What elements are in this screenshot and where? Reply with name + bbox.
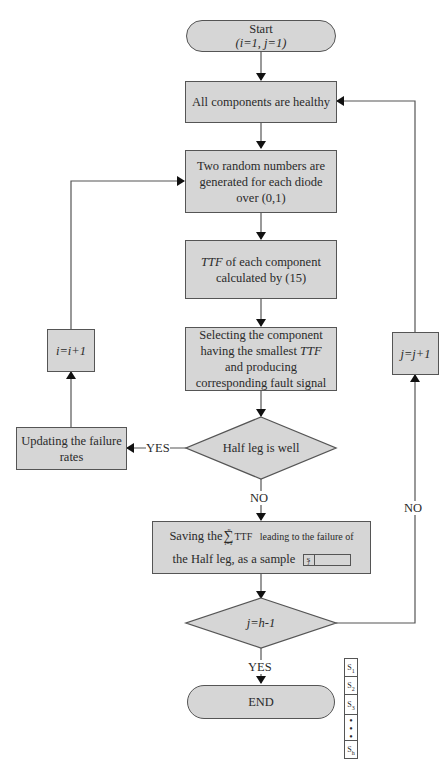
random-numbers-label: Two random numbers are generated for eac… [190,158,332,206]
start-terminal: Start (i=1, j=1) [186,20,336,52]
ttf-term: TTF [201,255,223,269]
half-leg-label: Half leg is well [223,441,300,456]
select-text-2: and producing corresponding fault signal [196,360,327,390]
samples-column: S1 S2 S3 • • • Sh [344,658,358,759]
save-line-2: the Half leg, as a sample Sj [173,548,351,570]
yes-down-label: YES [248,660,272,674]
sample-cell-3: S3 [345,695,357,715]
j-increment-label: j=j+1 [400,346,430,362]
i-increment-label: i=i+1 [56,343,86,359]
start-title: Start [249,22,273,36]
save-text-3: the Half leg, as a sample [173,552,296,566]
save-text-2: TTF leading to the failure of [234,531,353,542]
sigma-symbol: ∑ni=1 [224,525,234,547]
ttf-calc-label: TTF of each component calculated by (15) [190,254,332,286]
sample-cell-h: Sh [345,741,357,758]
sample-sub: 1 [352,668,355,674]
ttf-calc-box: TTF of each component calculated by (15) [185,240,337,299]
update-failure-rates-box: Updating the failure rates [16,427,127,470]
no-down-label: NO [250,491,268,505]
all-healthy-label: All components are healthy [192,94,330,110]
sample-sub: 2 [352,686,355,692]
sample-cell-1: S1 [345,659,357,677]
save-line-1: Saving the∑ni=1TTF leading to the failur… [169,525,353,548]
no-right-label: NO [404,501,422,515]
select-ttf: TTF [300,344,322,358]
j-check-diamond: j=h-1 [186,598,336,648]
update-label: Updating the failure rates [21,433,122,465]
sample-sub: h [352,750,355,756]
sample-ellipsis: • • • [345,715,357,741]
select-component-label: Selecting the component having the small… [190,327,332,391]
start-init: (i=1, j=1) [236,36,287,50]
half-leg-diamond: Half leg is well [186,417,336,479]
end-label: END [248,694,274,710]
sample-slot-s: S [304,555,315,565]
save-sample-box: Saving the∑ni=1TTF leading to the failur… [152,521,371,574]
sample-cell-2: S2 [345,677,357,695]
save-text-1: Saving the [169,529,222,543]
i-increment-box: i=i+1 [47,329,95,372]
sigma-bottom: i=1 [225,532,233,554]
yes-left-label: YES [146,441,170,455]
j-check-label: j=h-1 [247,616,276,631]
all-healthy-box: All components are healthy [185,81,337,123]
end-terminal: END [187,685,335,719]
sample-slot-icon: Sj [303,554,351,566]
random-numbers-box: Two random numbers are generated for eac… [185,150,337,213]
sample-sub: 3 [352,705,355,711]
ttf-rest: of each component calculated by (15) [216,255,321,285]
select-component-box: Selecting the component having the small… [185,327,337,391]
j-increment-box: j=j+1 [392,332,439,375]
